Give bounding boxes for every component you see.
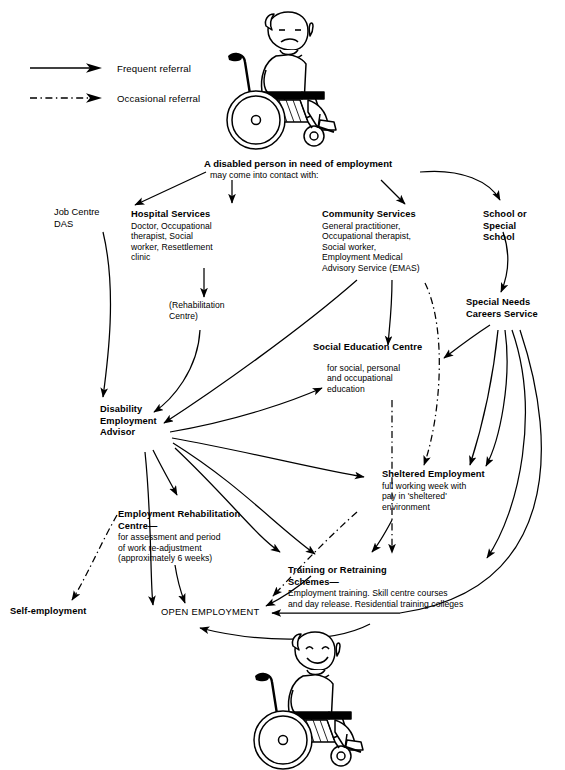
person-in-wheelchair-unhappy-illustration bbox=[208, 8, 340, 150]
community-services-line-1: General practitioner, bbox=[322, 221, 467, 232]
school-title-line-2: Special bbox=[483, 221, 527, 233]
job-centre-subtitle: DAS bbox=[54, 219, 99, 231]
sncs-title-line-1: Special Needs bbox=[466, 297, 538, 309]
community-services-line-3: Social worker, bbox=[322, 242, 467, 253]
header-block: A disabled person in need of employment … bbox=[204, 158, 392, 181]
dea-title-line-2: Employment bbox=[100, 416, 157, 428]
node-hospital-services[interactable]: Hospital Services Doctor, Occupational t… bbox=[131, 209, 256, 263]
node-open-employment[interactable]: OPEN EMPLOYMENT bbox=[161, 606, 260, 617]
node-self-employment[interactable]: Self-employment bbox=[10, 606, 86, 618]
node-social-education-centre[interactable]: Social Education Centre for social, pers… bbox=[313, 342, 422, 394]
person-in-wheelchair-smiling-illustration bbox=[232, 628, 370, 770]
training-line-1: Employment training. Skill centre course… bbox=[288, 588, 463, 599]
arrow-sncs-to-sheltered bbox=[470, 330, 498, 465]
arrow-community-to-sheltered-occasional bbox=[424, 283, 439, 465]
node-school-or-special-school[interactable]: School or Special School bbox=[483, 209, 527, 244]
community-services-title: Community Services bbox=[322, 209, 467, 221]
legend-solid-arrow-icon bbox=[28, 61, 104, 75]
training-line-2: and day release. Residential training co… bbox=[288, 599, 463, 610]
legend-label-frequent: Frequent referral bbox=[117, 63, 191, 74]
hospital-services-line-4: clinic bbox=[131, 252, 256, 263]
legend-item-occasional: Occasional referral bbox=[28, 88, 200, 108]
node-disability-employment-advisor[interactable]: Disability Employment Advisor bbox=[100, 404, 157, 439]
node-sheltered-employment[interactable]: Sheltered Employment full working week w… bbox=[382, 469, 485, 512]
header-line-1: A disabled person in need of employment bbox=[204, 158, 392, 170]
school-title-line-1: School or bbox=[483, 209, 527, 221]
arrow-erc-to-selfemployment-occasional bbox=[72, 515, 117, 600]
dea-title-line-3: Advisor bbox=[100, 427, 157, 439]
community-services-line-2: Occupational therapist, bbox=[322, 231, 467, 242]
social-education-centre-title: Social Education Centre bbox=[313, 342, 422, 354]
arrow-dea-to-sec bbox=[170, 388, 322, 432]
self-employment-title: Self-employment bbox=[10, 606, 86, 618]
sheltered-employment-title: Sheltered Employment bbox=[382, 469, 485, 481]
training-title-line-1: Training or Retraining bbox=[288, 565, 463, 577]
arrow-erc-to-open bbox=[175, 565, 185, 603]
erc-title-line-2: Centre— bbox=[118, 521, 240, 533]
hospital-services-line-2: therapist, Social bbox=[131, 231, 256, 242]
erc-title-line-1: Employment Rehabilitation bbox=[118, 509, 240, 521]
arrow-header-to-job-centre bbox=[135, 172, 206, 205]
social-education-centre-line-3: education bbox=[327, 384, 422, 395]
hospital-services-line-1: Doctor, Occupational bbox=[131, 221, 256, 232]
node-training-or-retraining-schemes[interactable]: Training or Retraining Schemes— Employme… bbox=[288, 565, 463, 609]
node-employment-rehabilitation-centre[interactable]: Employment Rehabilitation Centre— for as… bbox=[118, 509, 240, 564]
legend-item-frequent: Frequent referral bbox=[28, 58, 200, 78]
social-education-centre-line-1: for social, personal bbox=[327, 363, 422, 374]
arrow-jobcentre-to-dea bbox=[103, 232, 110, 397]
diagram-canvas: Frequent referral Occasional referral bbox=[0, 0, 565, 770]
node-job-centre[interactable]: Job Centre DAS bbox=[54, 207, 99, 230]
community-services-line-5: Advisory Service (EMAS) bbox=[322, 263, 467, 274]
arrow-header-to-school bbox=[420, 171, 500, 200]
arrow-dea-to-erc bbox=[153, 450, 177, 495]
rehabilitation-centre-line-1: (Rehabilitation bbox=[169, 300, 225, 311]
legend-label-occasional: Occasional referral bbox=[117, 93, 200, 104]
dea-title-line-1: Disability bbox=[100, 404, 157, 416]
erc-line-2: of work re-adjustment bbox=[118, 543, 240, 554]
header-line-2: may come into contact with: bbox=[210, 170, 392, 181]
sncs-title-line-2: Careers Service bbox=[466, 309, 538, 321]
hospital-services-line-3: worker, Resettlement bbox=[131, 242, 256, 253]
community-services-line-4: Employment Medical bbox=[322, 252, 467, 263]
open-employment-title: OPEN EMPLOYMENT bbox=[161, 606, 260, 617]
node-community-services[interactable]: Community Services General practitioner,… bbox=[322, 209, 467, 274]
arrow-sheltered-to-training bbox=[372, 520, 392, 552]
social-education-centre-line-2: and occupational bbox=[327, 373, 422, 384]
arrow-sncs-to-sec bbox=[444, 325, 490, 358]
school-title-line-3: School bbox=[483, 232, 527, 244]
rehabilitation-centre-line-2: Centre) bbox=[169, 311, 225, 322]
arrow-header-to-community bbox=[381, 180, 405, 204]
hospital-services-title: Hospital Services bbox=[131, 209, 256, 221]
sheltered-employment-line-2: pay in 'sheltered' bbox=[382, 491, 485, 502]
sheltered-employment-line-3: environment bbox=[382, 502, 485, 513]
arrow-sncs-to-training bbox=[487, 330, 525, 558]
erc-line-3: (approximately 6 weeks) bbox=[118, 553, 240, 564]
training-title-line-2: Schemes— bbox=[288, 577, 463, 589]
arrow-community-to-sec bbox=[388, 280, 392, 345]
arrow-rehab-to-dea bbox=[154, 330, 200, 412]
node-special-needs-careers-service[interactable]: Special Needs Careers Service bbox=[466, 297, 538, 320]
erc-line-1: for assessment and period bbox=[118, 532, 240, 543]
arrow-dea-to-sheltered bbox=[172, 438, 364, 477]
legend-dashdot-arrow-icon bbox=[28, 91, 104, 105]
sheltered-employment-line-1: full working week with bbox=[382, 481, 485, 492]
node-rehabilitation-centre[interactable]: (Rehabilitation Centre) bbox=[169, 300, 225, 321]
legend: Frequent referral Occasional referral bbox=[28, 58, 200, 108]
job-centre-title: Job Centre bbox=[54, 207, 99, 219]
arrow-sncs-to-sheltered2 bbox=[486, 330, 507, 466]
